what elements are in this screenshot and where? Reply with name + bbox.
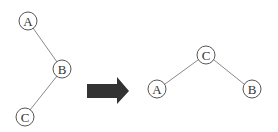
edge-b-c-left xyxy=(30,76,57,110)
edge-c-a-right xyxy=(165,60,198,84)
node-label: A xyxy=(152,82,162,97)
tree-rotation-diagram: A B C C A B xyxy=(0,0,278,132)
node-label: B xyxy=(248,82,257,97)
right-node-a: A xyxy=(148,80,166,98)
node-label: B xyxy=(58,62,67,77)
node-label: C xyxy=(21,110,30,125)
right-node-b: B xyxy=(243,80,261,98)
left-node-a: A xyxy=(19,12,37,30)
node-label: C xyxy=(202,48,211,63)
node-label: A xyxy=(23,14,33,29)
edge-a-b-left xyxy=(33,28,57,62)
left-node-b: B xyxy=(53,60,71,78)
right-node-c: C xyxy=(197,46,215,64)
right-arrow-icon xyxy=(87,77,129,104)
edge-c-b-right xyxy=(214,60,244,84)
left-node-c: C xyxy=(16,108,34,126)
